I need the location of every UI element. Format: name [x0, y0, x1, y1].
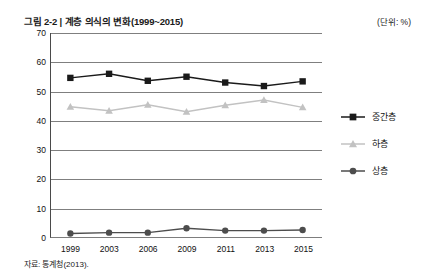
y-axis-tick-label: 10 [37, 204, 46, 214]
y-gridline [51, 92, 322, 93]
series-point [144, 101, 152, 108]
series-point [145, 78, 151, 84]
x-axis-tick-label: 2011 [217, 244, 235, 254]
circle-marker-icon [340, 165, 366, 177]
x-axis-tick-label: 2009 [178, 244, 197, 254]
chart-plot-area: 0102030405060701999200320062009201120132… [50, 33, 322, 238]
y-gridline [51, 238, 322, 239]
series-point [67, 230, 73, 236]
square-marker-icon [340, 111, 366, 123]
figure-container: 그림 2-2 | 계층 의식의 변화(1999~2015) (단위: %) 01… [0, 0, 425, 277]
chart-legend: 중간층하층상층 [340, 103, 420, 184]
y-axis-tick-label: 30 [37, 145, 46, 155]
y-gridline [51, 62, 322, 63]
figure-source-note: 자료: 통계청(2013). [24, 258, 89, 269]
chart-series-하층 [67, 96, 307, 114]
figure-header: 그림 2-2 | 계층 의식의 변화(1999~2015) (단위: %) [24, 14, 411, 30]
legend-label: 상층 [372, 164, 388, 177]
x-axis-tick-label: 2013 [255, 244, 274, 254]
legend-item-중간층[interactable]: 중간층 [340, 103, 420, 130]
series-point [145, 229, 151, 235]
x-axis-tick-label: 2006 [139, 244, 158, 254]
x-axis-tick-label: 2003 [100, 244, 119, 254]
series-point [106, 229, 112, 235]
y-axis-tick-label: 40 [37, 116, 46, 126]
chart-series-중간층 [67, 71, 306, 90]
y-gridline [51, 209, 322, 210]
y-axis-tick-label: 50 [37, 87, 46, 97]
series-point [67, 75, 73, 81]
y-axis-tick-label: 70 [37, 28, 46, 38]
y-axis-tick-label: 0 [41, 233, 46, 243]
legend-label: 하층 [372, 137, 388, 150]
y-axis-tick-label: 20 [37, 174, 46, 184]
unit-note: (단위: %) [377, 15, 411, 27]
y-gridline [51, 33, 322, 34]
series-point [222, 227, 228, 233]
x-axis-tick-label: 2015 [294, 244, 313, 254]
chart-series-상층 [67, 225, 306, 237]
legend-item-하층[interactable]: 하층 [340, 130, 420, 157]
chart-series-layer [51, 33, 322, 237]
y-gridline [51, 121, 322, 122]
series-point [183, 225, 189, 231]
series-point [260, 96, 268, 103]
series-point [222, 79, 228, 85]
legend-item-상층[interactable]: 상층 [340, 157, 420, 184]
series-point [299, 78, 305, 84]
figure-title: 그림 2-2 | 계층 의식의 변화(1999~2015) [24, 14, 183, 28]
series-point [261, 227, 267, 233]
triangle-marker-icon [340, 138, 366, 150]
series-point [299, 227, 305, 233]
series-point [183, 74, 189, 80]
y-gridline [51, 179, 322, 180]
x-axis-tick-label: 1999 [61, 244, 80, 254]
y-axis-tick-label: 60 [37, 57, 46, 67]
series-point [261, 83, 267, 89]
y-gridline [51, 150, 322, 151]
legend-label: 중간층 [372, 110, 396, 123]
series-point [106, 71, 112, 77]
